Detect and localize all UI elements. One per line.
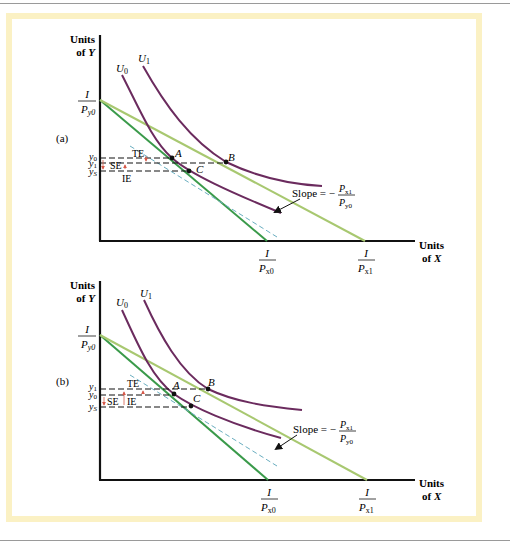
ie-label: IE xyxy=(122,173,131,184)
y-axis-label-line1: Units xyxy=(70,33,96,45)
x-axis-label-line1: Units xyxy=(419,239,445,251)
point-b-label: B xyxy=(228,151,235,163)
te-label: TE xyxy=(132,148,144,159)
panel-label-b: (b) xyxy=(56,375,69,388)
point-c-label: C xyxy=(193,392,201,404)
y-intercept-numerator: I xyxy=(84,323,90,335)
slope-denominator: Py0 xyxy=(338,197,353,210)
u1-label: U1 xyxy=(138,52,150,66)
y-intercept-denominator: Py0 xyxy=(80,103,95,117)
x-intercept-0-numerator: I xyxy=(266,486,272,498)
panel-label-a: (a) xyxy=(56,132,69,145)
u0-label: U0 xyxy=(116,62,128,76)
compensated-budget-line xyxy=(130,146,277,237)
x-axis-label-line2: of X xyxy=(422,490,442,502)
u0-label: U0 xyxy=(116,296,128,310)
x-axis-label-line1: Units xyxy=(419,477,445,489)
slope-numerator: Px1 xyxy=(338,183,353,196)
x-intercept-1-denominator: Px1 xyxy=(358,501,374,515)
figure-svg: Units of Y Units of X I Py0 (a) U0 U1 y0… xyxy=(0,0,510,545)
se-label: SE xyxy=(110,160,122,171)
point-c xyxy=(187,169,192,174)
slope-denominator: Py0 xyxy=(339,433,354,446)
point-a xyxy=(172,392,177,397)
slope-label: Slope = − xyxy=(292,187,335,199)
y-axis-label-line1: Units xyxy=(70,279,96,291)
indifference-curve-u1 xyxy=(143,66,322,186)
x-intercept-0-denominator: Px0 xyxy=(258,262,274,276)
point-c xyxy=(189,404,194,409)
x-axis-label-line2: of X xyxy=(422,252,442,264)
x-intercept-0-denominator: Px0 xyxy=(260,501,276,515)
y-axis-label-line2: of Y xyxy=(76,46,96,58)
x-intercept-0-numerator: I xyxy=(264,247,270,259)
slope-label: Slope = − xyxy=(293,423,336,435)
x-intercept-1-numerator: I xyxy=(364,486,370,498)
point-c-label: C xyxy=(196,163,204,175)
point-b-label: B xyxy=(208,376,215,388)
ie-label: IE xyxy=(127,396,136,407)
ys-label: yS xyxy=(88,401,97,413)
point-a xyxy=(170,156,175,161)
point-a-label: A xyxy=(172,379,180,391)
x-intercept-1-denominator: Px1 xyxy=(357,262,373,276)
y-intercept-numerator: I xyxy=(84,88,90,100)
y-axis-label-line2: of Y xyxy=(76,292,96,304)
panel-a: Units of Y Units of X I Py0 (a) U0 U1 y0… xyxy=(56,33,445,276)
y-intercept-denominator: Py0 xyxy=(80,338,95,352)
u1-label: U1 xyxy=(140,287,152,301)
se-label: SE xyxy=(107,396,119,407)
slope-numerator: Px1 xyxy=(339,419,354,432)
te-label: TE xyxy=(127,378,139,389)
x-intercept-1-numerator: I xyxy=(363,247,369,259)
point-a-label: A xyxy=(174,147,182,159)
panel-b: Units of Y Units of X I Py0 (b) U0 U1 y1… xyxy=(56,279,445,515)
